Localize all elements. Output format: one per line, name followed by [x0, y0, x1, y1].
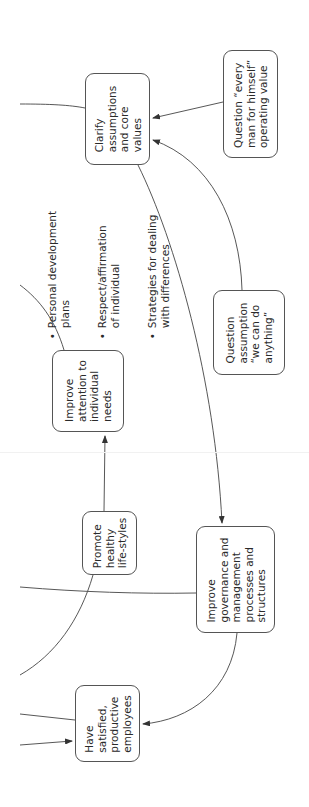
- node-label: Improve attention to individual needs: [63, 360, 113, 422]
- node-label: Promote healthy life-styles: [91, 518, 129, 568]
- bullet-list: Personal development plans Respect/affir…: [21, 211, 196, 339]
- edge-governance-to-satisfied: [143, 633, 237, 724]
- node-label: Improve governance and management proces…: [204, 537, 267, 622]
- edge-promote-to-improve-attention: [104, 436, 105, 511]
- improve-attention-bullets: Personal development plans Respect/affir…: [68, 200, 148, 350]
- edge-offpage-to-clarify: [20, 104, 85, 108]
- edge-offpage-to-satisfied-2: [20, 741, 72, 745]
- node-label: Have satisfied, productive employees: [83, 695, 133, 752]
- node-question-every-man: Question “every man for himself” operati…: [223, 50, 278, 158]
- page-fold-line: [0, 452, 309, 453]
- edge-offpage-to-governance: [20, 587, 196, 593]
- edge-question-every-man-to-clarify: [153, 102, 223, 118]
- node-label: Question “every man for himself” operati…: [232, 60, 270, 148]
- bullet-item: Strategies for dealing with differences: [146, 211, 171, 339]
- node-label: Clarify assumptions and core values: [93, 86, 143, 153]
- node-promote-healthy-lifestyles: Promote healthy life-styles: [82, 511, 137, 575]
- node-improve-governance: Improve governance and management proces…: [196, 526, 275, 633]
- node-question-assumption: Question assumption “we can do anything”: [213, 290, 285, 375]
- bullet-item: Personal development plans: [46, 211, 71, 339]
- node-clarify-assumptions: Clarify assumptions and core values: [85, 73, 150, 165]
- node-label: Question assumption “we can do anything”: [224, 302, 274, 363]
- bullet-item: Respect/affirmation of individual: [96, 211, 121, 339]
- edge-offpage-to-satisfied-1: [20, 714, 75, 720]
- node-improve-attention: Improve attention to individual needs: [52, 350, 124, 432]
- node-satisfied-employees: Have satisfied, productive employees: [75, 685, 140, 762]
